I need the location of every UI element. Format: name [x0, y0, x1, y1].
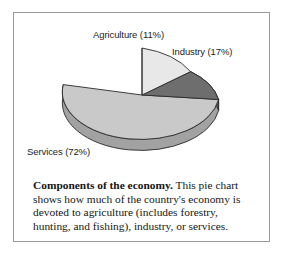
figure-page: Agriculture (11%) Industry (17%) Service… [0, 0, 284, 270]
pie-chart: Agriculture (11%) Industry (17%) Service… [14, 13, 271, 171]
figure-caption: Components of the economy. This pie char… [33, 179, 255, 233]
figure-frame: Agriculture (11%) Industry (17%) Service… [13, 12, 270, 242]
pie-label-industry: Industry (17%) [172, 46, 232, 57]
pie-label-agriculture: Agriculture (11%) [93, 29, 164, 40]
pie-label-services: Services (72%) [27, 146, 90, 157]
caption-lead-in: Components of the economy. [33, 179, 173, 191]
